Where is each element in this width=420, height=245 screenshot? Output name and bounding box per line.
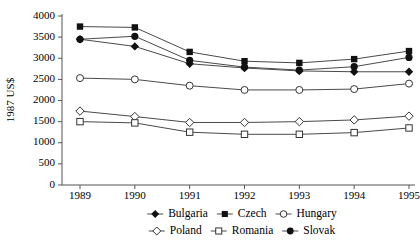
y-axis-tick-label: 1000 — [33, 135, 56, 147]
y-axis-tick-label: 3500 — [33, 30, 56, 42]
data-point-open-square — [216, 228, 222, 234]
legend-item-bulgaria[interactable]: Bulgaria — [147, 207, 208, 220]
data-point-open-square — [296, 131, 302, 137]
data-point-open-circle — [406, 80, 413, 87]
x-axis-tick-label: 1992 — [234, 189, 256, 201]
series-line-czech — [80, 27, 409, 63]
data-point-filled-square — [222, 211, 228, 217]
y-axis-tick-label: 4000 — [33, 9, 56, 21]
data-point-open-circle — [131, 76, 138, 83]
y-axis-tick-label: 3000 — [33, 51, 56, 63]
data-point-open-diamond — [240, 118, 248, 126]
x-axis-tick-label: 1995 — [398, 189, 420, 201]
data-point-open-square — [77, 118, 83, 124]
data-point-filled-circle — [287, 228, 294, 235]
data-point-open-circle — [77, 75, 84, 82]
x-axis-tick-label: 1990 — [124, 189, 147, 201]
data-point-open-diamond — [76, 107, 84, 115]
legend-item-romania[interactable]: Romania — [211, 224, 274, 236]
data-point-filled-square — [406, 48, 412, 54]
x-axis-tick-label: 1989 — [69, 189, 92, 201]
data-point-filled-square — [77, 23, 83, 29]
data-point-filled-circle — [351, 63, 358, 70]
data-point-open-diamond — [295, 117, 303, 125]
data-point-open-square — [132, 120, 138, 126]
line-chart: 050010001500200025003000350040001987 US$… — [0, 0, 420, 245]
y-axis-tick-label: 2500 — [33, 72, 56, 84]
data-point-open-diamond — [153, 227, 161, 235]
legend-label: Romania — [232, 224, 274, 236]
y-axis-tick-label: 2000 — [33, 93, 56, 105]
legend-item-czech[interactable]: Czech — [217, 207, 267, 219]
data-point-open-square — [186, 129, 192, 135]
chart-container: 050010001500200025003000350040001987 US$… — [0, 0, 420, 245]
data-point-open-circle — [186, 82, 193, 89]
data-point-filled-circle — [76, 36, 83, 43]
data-point-open-circle — [241, 86, 248, 93]
data-point-filled-circle — [186, 57, 193, 64]
data-point-open-diamond — [185, 118, 193, 126]
y-axis-tick-label: 0 — [50, 178, 56, 190]
legend-label: Bulgaria — [168, 207, 208, 220]
legend-item-poland[interactable]: Poland — [149, 224, 202, 236]
data-point-open-square — [241, 131, 247, 137]
x-axis-tick-label: 1993 — [288, 189, 311, 201]
data-point-open-circle — [296, 86, 303, 93]
x-axis-tick-label: 1994 — [343, 189, 366, 201]
data-point-filled-square — [241, 58, 247, 64]
data-point-filled-diamond — [151, 210, 159, 218]
legend-item-hungary[interactable]: Hungary — [276, 207, 337, 220]
legend-label: Poland — [170, 224, 202, 236]
data-point-filled-square — [186, 49, 192, 55]
data-point-filled-diamond — [405, 68, 413, 76]
data-point-filled-diamond — [131, 42, 139, 50]
legend-label: Slovak — [303, 224, 335, 236]
data-point-open-square — [351, 129, 357, 135]
data-point-filled-square — [132, 24, 138, 30]
data-point-filled-circle — [296, 66, 303, 73]
data-point-filled-circle — [241, 64, 248, 71]
y-axis-tick-label: 500 — [39, 156, 56, 168]
legend-label: Hungary — [297, 207, 337, 220]
data-point-open-circle — [351, 86, 358, 93]
data-point-filled-circle — [131, 33, 138, 40]
data-point-open-diamond — [405, 112, 413, 120]
data-point-filled-circle — [405, 54, 412, 61]
data-point-filled-square — [351, 56, 357, 62]
data-point-filled-square — [296, 60, 302, 66]
legend-item-slovak[interactable]: Slovak — [282, 224, 335, 236]
data-point-open-circle — [280, 211, 287, 218]
data-point-open-square — [406, 125, 412, 131]
data-point-open-diamond — [350, 116, 358, 124]
y-axis-tick-label: 1500 — [33, 114, 56, 126]
x-axis-tick-label: 1991 — [179, 189, 201, 201]
y-axis-title: 1987 US$ — [4, 77, 16, 122]
legend-label: Czech — [238, 207, 267, 219]
